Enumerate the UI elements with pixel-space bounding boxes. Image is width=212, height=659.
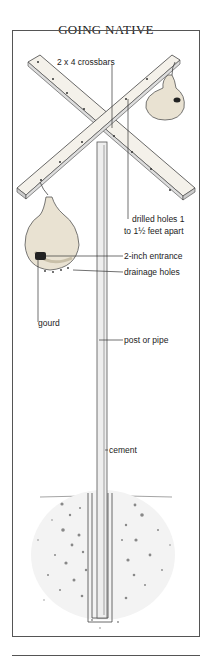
label-drilled-holes-line1: drilled holes 1 xyxy=(132,214,184,224)
gourd-left xyxy=(25,182,79,273)
label-drainage-holes: drainage holes xyxy=(124,267,180,277)
label-gourd: gourd xyxy=(38,318,60,328)
birdhouse-illustration xyxy=(0,0,212,659)
post xyxy=(97,142,107,618)
label-entrance: 2-inch entrance xyxy=(124,251,183,261)
label-post: post or pipe xyxy=(124,335,168,345)
label-drilled-holes-line2: to 1½ feet apart xyxy=(124,226,184,236)
label-crossbars: 2 x 4 crossbars xyxy=(57,57,115,67)
label-cement: cement xyxy=(109,445,137,455)
